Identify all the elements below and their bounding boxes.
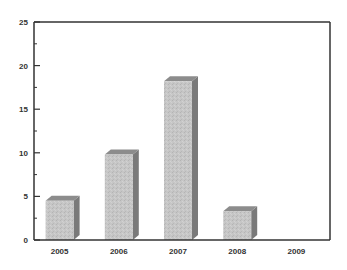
x-tick-label: 2005: [51, 247, 69, 256]
y-tick-label: 25: [19, 18, 28, 27]
y-tick-label: 5: [24, 192, 29, 201]
bar-side: [251, 206, 257, 240]
y-tick-label: 10: [19, 149, 28, 158]
y-tick-label: 20: [19, 62, 28, 71]
x-tick-label: 2007: [169, 247, 187, 256]
y-tick-label: 0: [24, 236, 29, 245]
x-tick-label: 2006: [110, 247, 128, 256]
bar-chart: 051015202520052006200720082009: [0, 0, 347, 270]
x-tick-label: 2008: [228, 247, 246, 256]
bar-2007: [164, 81, 192, 240]
bar-2008: [223, 211, 251, 240]
x-tick-label: 2009: [288, 247, 306, 256]
bar-side: [192, 76, 198, 240]
bar-side: [74, 196, 80, 240]
plot-area: 051015202520052006200720082009: [19, 18, 330, 256]
y-tick-label: 15: [19, 105, 28, 114]
bar-top: [105, 150, 139, 155]
bar-top: [164, 76, 198, 81]
bar-2005: [46, 201, 74, 240]
bar-side: [133, 150, 139, 240]
bar-2006: [105, 155, 133, 240]
